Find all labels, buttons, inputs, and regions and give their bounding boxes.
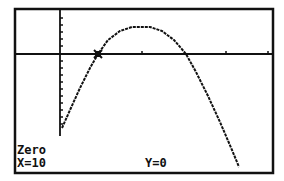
trace-cursor-icon	[94, 50, 102, 58]
screen-border	[15, 9, 273, 173]
zero-label: Zero	[17, 145, 46, 156]
x-readout: X=10	[17, 158, 46, 169]
parabola-curve	[62, 27, 239, 167]
y-readout: Y=0	[145, 158, 167, 169]
